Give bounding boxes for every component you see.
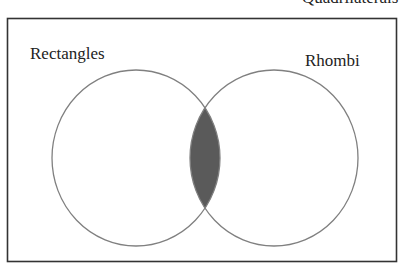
universe-label: Quadrilaterals xyxy=(302,0,398,7)
rectangles-label: Rectangles xyxy=(30,44,105,63)
rhombi-label: Rhombi xyxy=(305,51,360,70)
venn-diagram: Quadrilaterals Rectangles Rhombi xyxy=(0,0,407,270)
